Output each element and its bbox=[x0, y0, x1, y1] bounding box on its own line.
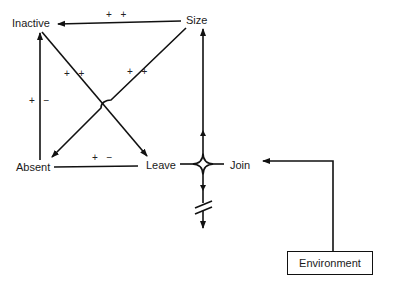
sign-leave-to-absent: + − bbox=[92, 153, 115, 163]
edge-size-to-inactive bbox=[58, 21, 181, 24]
junction-diamond-icon bbox=[192, 153, 214, 175]
sign-absent-to-inactive: + − bbox=[29, 96, 52, 106]
sign-inactive-to-leave: + + bbox=[64, 69, 87, 79]
node-join: Join bbox=[230, 159, 250, 171]
node-environment: Environment bbox=[299, 257, 361, 269]
diagram-canvas bbox=[0, 0, 398, 293]
node-absent: Absent bbox=[16, 161, 50, 173]
sign-size-to-inactive: + + bbox=[106, 10, 129, 20]
edge-size-to-absent bbox=[52, 28, 186, 157]
edge-inactive-to-leave bbox=[42, 32, 147, 156]
node-leave: Leave bbox=[146, 159, 176, 171]
mid-arrow-down-icon bbox=[200, 185, 206, 191]
sign-size-to-absent: + + bbox=[127, 67, 150, 77]
edge-leave-to-absent bbox=[54, 166, 138, 167]
node-environment-box: Environment bbox=[287, 251, 373, 275]
node-size: Size bbox=[186, 14, 207, 26]
edge-environment-to-join bbox=[263, 161, 333, 251]
mid-arrow-up-icon bbox=[200, 130, 206, 136]
node-inactive: Inactive bbox=[12, 17, 50, 29]
